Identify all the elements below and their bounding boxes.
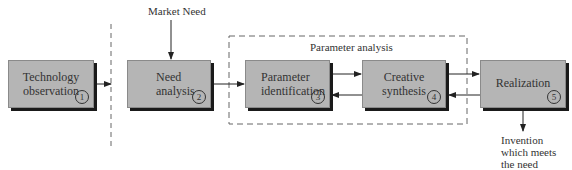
output-line: Invention	[501, 134, 556, 146]
step-line: Parameter	[261, 70, 329, 84]
step-line: Technology	[9, 70, 93, 84]
step-line: Realization	[481, 76, 565, 90]
step-creative-synthesis: Creative synthesis 4	[362, 60, 446, 108]
output-line: the need	[501, 158, 556, 170]
output-line: which meets	[501, 146, 556, 158]
step-number-badge: 5	[547, 90, 561, 104]
step-technology-observation: Technology observation 1	[8, 60, 94, 108]
market-need-label: Market Need	[148, 5, 206, 17]
step-need-analysis: Need analysis 2	[127, 60, 211, 108]
step-line: Creative	[363, 70, 445, 84]
step-line: Need	[156, 70, 210, 84]
step-number-badge: 4	[427, 90, 441, 104]
parameter-analysis-label: Parameter analysis	[310, 41, 393, 53]
step-realization: Realization 5	[480, 60, 566, 108]
step-number-badge: 2	[192, 90, 206, 104]
step-parameter-identification: Parameter identification 3	[245, 60, 330, 108]
step-number-badge: 1	[75, 90, 89, 104]
step-number-badge: 3	[311, 90, 325, 104]
output-label: Invention which meets the need	[501, 134, 556, 170]
